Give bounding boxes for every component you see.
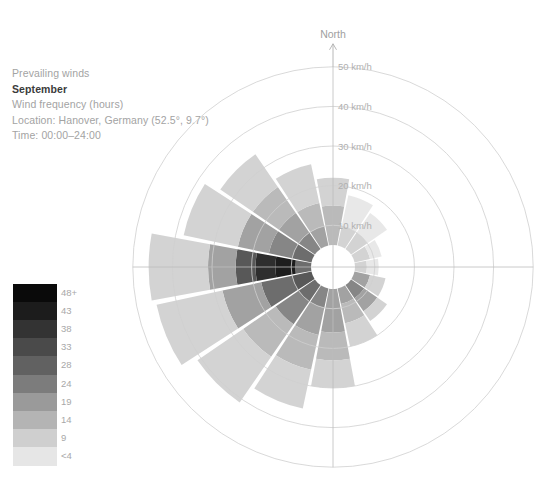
radial-tick-label: 20 km/h bbox=[338, 180, 372, 191]
wind-rose-sectors bbox=[149, 154, 387, 408]
radial-tick-label: 10 km/h bbox=[338, 220, 372, 231]
north-arrow-icon bbox=[330, 44, 337, 67]
north-label: North bbox=[320, 28, 346, 40]
wind-rose-chart: North10 km/h20 km/h30 km/h40 km/h50 km/h bbox=[0, 0, 555, 481]
radial-tick-label: 30 km/h bbox=[338, 141, 372, 152]
radial-tick-label: 40 km/h bbox=[338, 101, 372, 112]
radial-tick-label: 50 km/h bbox=[338, 61, 372, 72]
windrose-page: Prevailing winds September Wind frequenc… bbox=[0, 0, 555, 481]
